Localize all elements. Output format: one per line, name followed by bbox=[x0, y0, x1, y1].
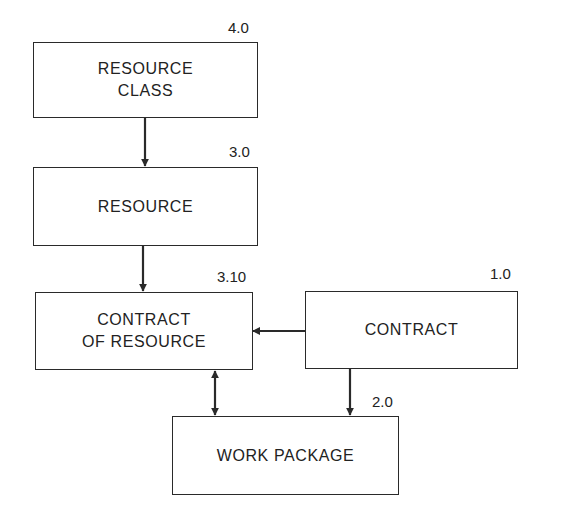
entity-box-resource-class: RESOURCE CLASS bbox=[33, 42, 258, 118]
entity-number-resource: 3.0 bbox=[229, 143, 250, 160]
entity-label-resource-class: RESOURCE CLASS bbox=[98, 58, 193, 102]
entity-number-work-package: 2.0 bbox=[372, 393, 393, 410]
entity-box-work-package: WORK PACKAGE bbox=[172, 416, 399, 495]
entity-box-contract-of-resource: CONTRACT OF RESOURCE bbox=[35, 292, 253, 370]
entity-number-contract: 1.0 bbox=[490, 265, 511, 282]
entity-label-contract-of-resource: CONTRACT OF RESOURCE bbox=[82, 309, 206, 353]
entity-label-resource: RESOURCE bbox=[98, 196, 193, 218]
entity-box-contract: CONTRACT bbox=[305, 291, 518, 369]
entity-label-contract: CONTRACT bbox=[365, 319, 459, 341]
entity-number-contract-of-resource: 3.10 bbox=[217, 268, 246, 285]
entity-label-work-package: WORK PACKAGE bbox=[217, 445, 355, 467]
entity-number-resource-class: 4.0 bbox=[228, 19, 249, 36]
entity-box-resource: RESOURCE bbox=[33, 167, 258, 246]
